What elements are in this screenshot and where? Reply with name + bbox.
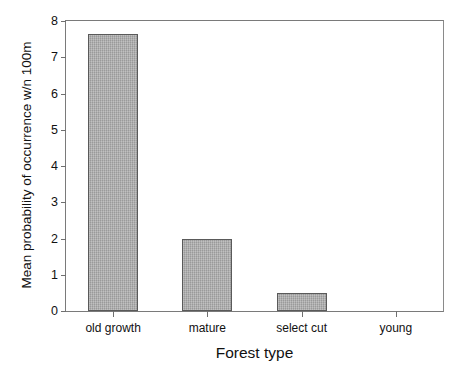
- x-axis-tick-label: young: [380, 321, 413, 335]
- y-axis-tick-mark: [61, 202, 66, 203]
- y-axis-tick-label: 0: [51, 304, 58, 318]
- bar-old-growth: [88, 34, 138, 311]
- y-axis-tick-mark: [61, 57, 66, 58]
- bar-select-cut: [277, 293, 327, 311]
- x-axis-tick-mark: [113, 311, 114, 317]
- x-axis-tick-mark: [302, 311, 303, 317]
- y-axis-tick-mark: [61, 239, 66, 240]
- y-axis-tick-label: 2: [51, 232, 58, 246]
- y-axis-tick-mark: [61, 275, 66, 276]
- y-axis-tick-mark: [61, 166, 66, 167]
- y-axis-tick-label: 4: [51, 159, 58, 173]
- y-axis-title: Mean probability of occurrence w/n 100m: [16, 0, 38, 330]
- y-axis-tick-mark: [61, 130, 66, 131]
- bar-chart-figure: Mean probability of occurrence w/n 100m …: [0, 0, 463, 372]
- x-axis-tick-mark: [396, 311, 397, 317]
- x-axis-tick-mark: [207, 311, 208, 317]
- y-axis-tick-label: 6: [51, 87, 58, 101]
- y-axis-tick-label: 3: [51, 195, 58, 209]
- plot-inner: 012345678old growthmatureselect cutyoung: [66, 21, 443, 311]
- x-axis-tick-label: select cut: [276, 321, 327, 335]
- x-axis-tick-label: old growth: [85, 321, 140, 335]
- y-axis-tick-label: 8: [51, 14, 58, 28]
- y-axis-tick-mark: [61, 94, 66, 95]
- y-axis-tick-label: 1: [51, 268, 58, 282]
- plot-area: 012345678old growthmatureselect cutyoung: [65, 20, 444, 312]
- y-axis-tick-label: 5: [51, 123, 58, 137]
- y-axis-tick-label: 7: [51, 50, 58, 64]
- bar-mature: [182, 239, 232, 312]
- x-axis-tick-label: mature: [189, 321, 226, 335]
- x-axis-title: Forest type: [65, 344, 444, 362]
- y-axis-tick-mark: [61, 21, 66, 22]
- y-axis-tick-mark: [61, 311, 66, 312]
